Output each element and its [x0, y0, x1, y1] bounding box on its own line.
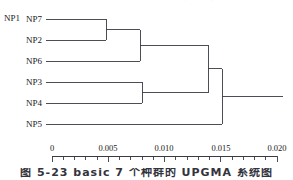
leaf-label-np5: NP5 — [16, 119, 42, 129]
leaf-label-np6: NP6 — [16, 56, 42, 66]
x-tick-label-3: 0.015 — [211, 143, 230, 153]
leaf-label-np7: NP7 — [16, 14, 42, 24]
x-axis-line — [0, 154, 293, 168]
leaf-label-np2: NP2 — [16, 35, 42, 45]
cropped-caption-text: 图 5-23 basic 7 个种群的 UPGMA 系统图 — [20, 168, 273, 179]
leaf-label-np3: NP3 — [16, 77, 42, 87]
cropped-caption-strip: 图 5-23 basic 7 个种群的 UPGMA 系统图 — [0, 168, 293, 180]
x-tick-label-2: 0.010 — [154, 143, 173, 153]
leaf-label-np4: NP4 — [16, 98, 42, 108]
dendrogram-figure: 基于线粒体细胞色素 b 基因序列的遗传距离分析 NP1 NP7NP2NP6NP3… — [0, 0, 293, 180]
x-tick-label-0: 0 — [50, 143, 54, 153]
x-tick-label-1: 0.005 — [98, 143, 117, 153]
x-tick-label-4: 0.020 — [267, 143, 286, 153]
dendrogram-tree — [0, 0, 293, 150]
x-axis: 00.0050.0100.0150.020 — [0, 143, 293, 169]
plot-area: NP7NP2NP6NP3NP4NP5 — [0, 0, 293, 150]
